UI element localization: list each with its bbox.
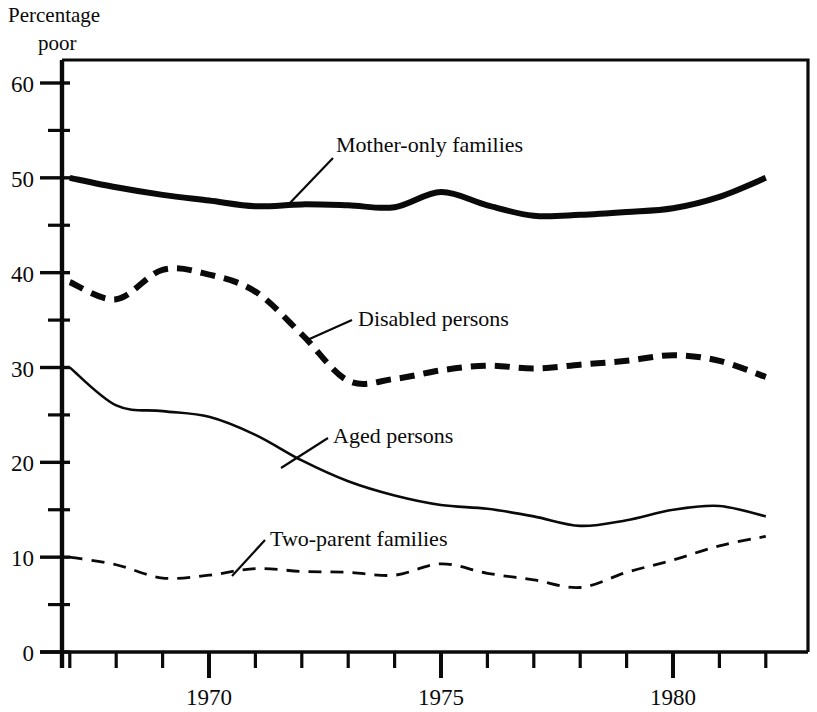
axis-titles: Percentage poor bbox=[8, 3, 100, 55]
annotation-label: Mother-only families bbox=[336, 132, 523, 157]
series-annotations-layer: Mother-only familiesDisabled personsAged… bbox=[232, 132, 523, 576]
annotation-label: Disabled persons bbox=[358, 306, 509, 331]
y-axis-title-line-1: Percentage bbox=[8, 3, 100, 27]
series-annotation: Two-parent families bbox=[232, 526, 447, 576]
y-axis-ticks bbox=[40, 83, 70, 652]
chart-canvas: Percentage poor 0102030405060 1970197519… bbox=[0, 0, 817, 712]
x-axis-ticks bbox=[70, 652, 766, 678]
y-axis-tick-label: 0 bbox=[23, 641, 35, 666]
y-axis-tick-label: 10 bbox=[11, 546, 34, 571]
series-line-mother-only-families bbox=[70, 178, 766, 217]
annotation-leader-line bbox=[288, 158, 333, 205]
annotation-leader-line bbox=[305, 320, 352, 341]
poverty-rate-line-chart: Percentage poor 0102030405060 1970197519… bbox=[0, 0, 817, 712]
y-axis-tick-label: 50 bbox=[11, 167, 34, 192]
y-axis-title-line-2: poor bbox=[38, 31, 77, 55]
y-axis-tick-label: 60 bbox=[11, 72, 34, 97]
y-axis-tick-label: 20 bbox=[11, 451, 34, 476]
annotation-label: Two-parent families bbox=[270, 526, 447, 551]
annotation-leader-line bbox=[232, 540, 265, 576]
y-axis-tick-label: 30 bbox=[11, 357, 34, 382]
x-axis-tick-labels: 197019751980 bbox=[186, 685, 696, 710]
y-axis-tick-labels: 0102030405060 bbox=[11, 72, 34, 666]
series-annotation: Disabled persons bbox=[305, 306, 509, 341]
annotation-label: Aged persons bbox=[333, 423, 453, 448]
x-axis-tick-label: 1975 bbox=[418, 685, 464, 710]
series-annotation: Mother-only families bbox=[288, 132, 523, 205]
y-axis-tick-label: 40 bbox=[11, 262, 34, 287]
x-axis-tick-label: 1980 bbox=[650, 685, 696, 710]
x-axis-tick-label: 1970 bbox=[186, 685, 232, 710]
series-annotation: Aged persons bbox=[281, 423, 453, 468]
